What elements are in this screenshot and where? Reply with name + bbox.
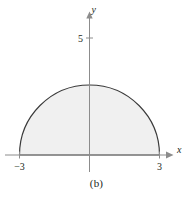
semicircle-plot: y x −3 3 5 xyxy=(0,0,193,205)
x-tick-label-3: 3 xyxy=(157,161,162,172)
y-axis-label: y xyxy=(91,4,97,15)
y-tick-label-5: 5 xyxy=(78,33,83,44)
x-axis-arrowhead xyxy=(166,152,174,159)
figure-container: y x −3 3 5 (b) xyxy=(0,0,193,205)
figure-caption: (b) xyxy=(0,177,193,189)
x-tick-label-minus-3: −3 xyxy=(14,161,25,172)
x-axis-label: x xyxy=(176,144,182,155)
